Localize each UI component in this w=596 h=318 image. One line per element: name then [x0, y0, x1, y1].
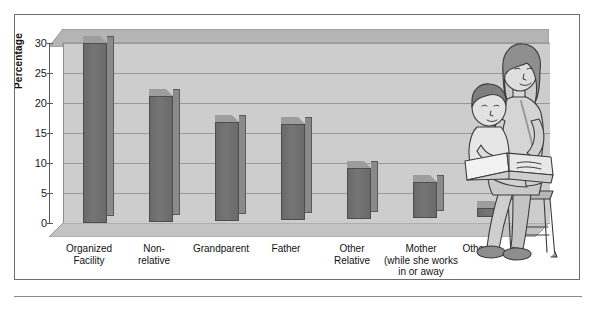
bar-mother [413, 182, 437, 218]
bar-top-face [83, 36, 107, 43]
y-tick-mark-25 [47, 73, 53, 74]
figure-bottom-rule [14, 296, 582, 297]
bar-front-face [347, 168, 371, 219]
y-axis-title: Percentage [14, 33, 24, 89]
illustration-mother-reading-to-child [447, 41, 577, 277]
y-tick-mark-5 [47, 193, 53, 194]
y-tick-mark-0 [47, 223, 53, 224]
y-tick-label-20: 20 [19, 98, 47, 108]
bar-front-face [281, 124, 305, 220]
bar-front-face [149, 96, 173, 222]
bar-top-face [413, 175, 437, 182]
x-label-line: relative [117, 255, 191, 267]
y-tick-label-10: 10 [19, 158, 47, 168]
bar-top-face [281, 117, 305, 124]
y-tick-label-15: 15 [19, 128, 47, 138]
y-tick-mark-30 [47, 43, 53, 44]
bar-side-face [107, 36, 114, 216]
x-label-line: from home) [365, 278, 477, 281]
bar-father [281, 124, 305, 220]
bar-grandparent [215, 122, 239, 221]
bar-side-face [437, 175, 444, 211]
y-tick-label-0: 0 [19, 218, 47, 228]
bar-side-face [173, 89, 180, 215]
bar-other-relative [347, 168, 371, 219]
figure-frame: 30 25 20 15 10 5 0 Percentage Organized … [14, 14, 580, 280]
bar-front-face [215, 122, 239, 221]
x-tick-label-father: Father [253, 243, 319, 255]
bar-top-face [149, 89, 173, 96]
bar-side-face [239, 115, 246, 214]
bar-side-face [305, 117, 312, 213]
bar-organized-facility [83, 43, 107, 223]
y-tick-mark-10 [47, 163, 53, 164]
bar-top-face [215, 115, 239, 122]
bar-front-face [413, 182, 437, 218]
bar-front-face [83, 43, 107, 223]
x-label-line: Father [253, 243, 319, 255]
bar-side-face [371, 161, 378, 212]
y-tick-label-5: 5 [19, 188, 47, 198]
bar-top-face [347, 161, 371, 168]
bar-non-relative [149, 96, 173, 222]
y-tick-mark-20 [47, 103, 53, 104]
y-tick-mark-15 [47, 133, 53, 134]
